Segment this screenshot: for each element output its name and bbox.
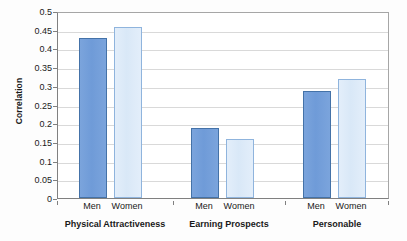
x-axis-separator-tick [388,201,389,205]
y-axis-tick-label: 0 [47,194,52,204]
y-axis-tick-label: 0.25 [34,101,52,111]
y-axis-tick-label: 0.05 [34,175,52,185]
y-axis-tick-label: 0.1 [39,157,52,167]
x-axis-separator-tick [285,201,286,205]
plot-area [57,12,389,199]
x-axis-subcategory-labels: MenWomenMenWomenMenWomen [57,201,389,217]
x-axis-group-labels: Physical AttractivenessEarning Prospects… [57,219,389,233]
y-axis-tick-label: 0.3 [39,82,52,92]
x-axis-sub-label: Women [329,201,373,211]
bar-women[interactable] [226,139,254,198]
y-axis-tick-label: 0.2 [39,119,52,129]
y-axis-tick-label: 0.15 [34,138,52,148]
y-axis-tick-label: 0.5 [39,7,52,17]
x-axis-sub-label: Women [217,201,261,211]
x-axis-separator-tick [57,201,58,205]
x-axis-group-label: Personable [267,219,407,229]
bar-men[interactable] [79,38,107,198]
y-axis-tick-label: 0.45 [34,26,52,36]
bar-women[interactable] [338,79,366,198]
y-axis-tick-labels: 0.50.450.40.350.30.250.20.150.10.050 [0,12,57,199]
x-axis-sub-label: Women [105,201,149,211]
bar-men[interactable] [303,91,331,198]
y-axis-tick-label: 0.35 [34,63,52,73]
bar-women[interactable] [114,27,142,198]
x-axis-separator-tick [173,201,174,205]
y-axis-tick-label: 0.4 [39,44,52,54]
y-axis-tick-mark [53,199,57,200]
bar-men[interactable] [191,128,219,198]
bar-chart: Correlation 0.50.450.40.350.30.250.20.15… [0,0,407,241]
bars-layer [58,13,388,198]
